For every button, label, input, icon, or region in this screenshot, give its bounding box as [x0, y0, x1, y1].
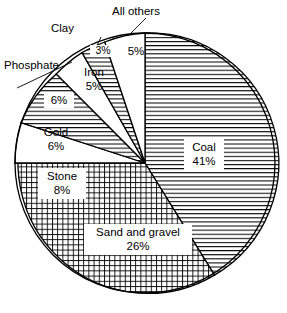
slice-label-phosphate: Phosphate: [4, 59, 59, 71]
slice-label-stone: Stone: [47, 170, 77, 182]
slice-value-coal: 41%: [192, 155, 215, 167]
slice-value-phosphate: 6%: [51, 94, 68, 106]
slice-value-all-others: 5%: [128, 45, 145, 57]
slice-label-gold: Gold: [44, 126, 68, 138]
slice-value-stone: 8%: [54, 184, 71, 196]
slice-value-clay: 3%: [95, 44, 110, 56]
pie-chart-svg: Coal 41% Sand and gravel 26% Stone 8% Go…: [0, 0, 287, 313]
slice-label-sand-and-gravel: Sand and gravel: [96, 226, 180, 238]
pie-chart-figure: Coal 41% Sand and gravel 26% Stone 8% Go…: [0, 0, 287, 313]
slice-label-all-others: All others: [112, 5, 160, 17]
slice-value-iron: 5%: [86, 80, 103, 92]
slice-value-sand-and-gravel: 26%: [126, 240, 149, 252]
slice-label-iron: Iron: [84, 66, 104, 78]
slice-label-coal: Coal: [192, 141, 216, 153]
slice-label-clay: Clay: [51, 22, 74, 34]
slice-value-gold: 6%: [48, 140, 65, 152]
